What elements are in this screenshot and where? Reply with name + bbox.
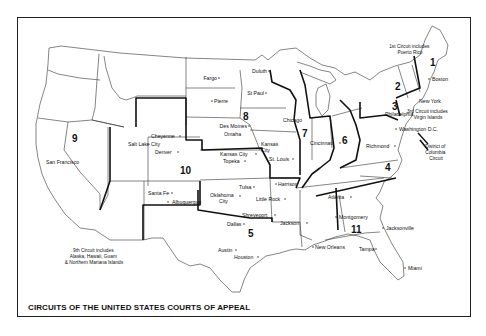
- circuit-number-9: 9: [72, 133, 78, 144]
- circuit-number-5: 5: [248, 228, 254, 239]
- city-label: Santa Fe: [148, 190, 169, 196]
- city-label: New York: [419, 98, 441, 104]
- city-label: Topeka: [223, 158, 240, 164]
- map-notes: 1st Circuit includes Puerto Rico 3rd Cir…: [65, 44, 449, 265]
- city-label: Washington D.C.: [399, 126, 438, 132]
- city-label: Montgomery: [339, 214, 368, 220]
- city-label: San Francisco: [46, 159, 79, 165]
- city-label: Albuquerque: [172, 199, 202, 205]
- city-label: Des Moines: [220, 123, 248, 129]
- us-circuits-map: 1 2 3 4 5 6 7 8 9 10 11 Fargo Duluth St …: [0, 0, 486, 336]
- circuit-number-4: 4: [385, 162, 391, 173]
- city-label: Tampa: [359, 246, 375, 252]
- circuit-number-10: 10: [180, 165, 192, 176]
- circuit-number-2: 2: [395, 81, 401, 92]
- city-label: Richmond: [366, 143, 389, 149]
- city-label: Salt Lake City: [128, 141, 160, 147]
- city-label: Boston: [432, 76, 448, 82]
- circuit-number-11: 11: [351, 224, 362, 235]
- city-label: Jackson: [280, 220, 299, 226]
- note-3rd-circuit: 3rd Circuit includes Virgin Islands: [407, 109, 449, 120]
- city-label: St Paul: [247, 90, 264, 96]
- city-label: Miami: [408, 265, 422, 271]
- city-label: Shreveport: [242, 212, 268, 218]
- map-title: CIRCUITS OF THE UNITED STATES COURTS OF …: [28, 303, 250, 312]
- city-label: Atlanta: [328, 194, 344, 200]
- city-label: Dallas: [227, 221, 242, 227]
- note-9th-circuit: 9th Circuit includes Alaska, Hawaii, Gua…: [65, 248, 124, 265]
- circuit-number-6: 6: [342, 135, 348, 146]
- city-label: Fargo: [203, 75, 217, 81]
- city-label: Tulsa: [239, 184, 252, 190]
- city-label: Jacksonville: [386, 225, 414, 231]
- circuit-number-8: 8: [243, 111, 249, 122]
- city-label: Cheyenne: [151, 133, 175, 139]
- city-label: Austin: [218, 247, 233, 253]
- city-label: City: [219, 198, 228, 204]
- city-label: New Orleans: [315, 244, 345, 250]
- city-label: Pierre: [214, 98, 228, 104]
- note-1st-circuit: 1st Circuit includes Puerto Rico: [389, 44, 431, 55]
- city-label: Duluth: [252, 68, 267, 74]
- circuit-number-1: 1: [430, 57, 436, 68]
- city-label: Little Rock: [256, 196, 281, 202]
- city-label: Harrison: [278, 181, 298, 187]
- city-label: Denver: [155, 149, 172, 155]
- note-dc-circuit: District of Columbia Circuit: [425, 144, 447, 161]
- city-label: Cincinnati: [310, 140, 333, 146]
- city-label: St. Louis: [269, 156, 290, 162]
- city-label: Omaha: [224, 131, 241, 137]
- city-label: Chicago: [283, 117, 302, 123]
- city-label: Kansas City: [220, 151, 248, 157]
- circuit-number-7: 7: [302, 128, 308, 139]
- city-label: City: [261, 147, 270, 153]
- city-label: Houston: [234, 254, 253, 260]
